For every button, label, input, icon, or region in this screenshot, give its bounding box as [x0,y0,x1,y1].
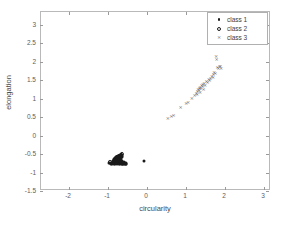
data-point-class-3 [179,105,183,109]
x-axis-tick [264,187,265,190]
y-axis-tick-label: 1 [32,94,36,101]
data-point-class-3 [202,87,206,91]
x-axis-tick [69,187,70,190]
legend: class 1 class 2 × class 3 [207,12,268,45]
y-axis-tick-right [266,80,269,81]
y-axis-tick-right [266,136,269,137]
x-axis-tick [108,187,109,190]
y-axis-tick-right [266,62,269,63]
legend-item-label: class 2 [227,25,247,32]
x-axis-tick-top [186,12,187,15]
x-axis-tick-label: -1 [104,192,110,199]
x-axis-tick-label: -2 [65,192,71,199]
data-point-class-1 [143,160,146,163]
y-axis-tick-label: -1.5 [25,187,36,194]
y-axis-tick [40,173,43,174]
x-axis-tick-label: 0 [144,192,148,199]
x-axis-tick-top [108,12,109,15]
x-axis-tick-label: 3 [261,192,265,199]
y-axis-tick-right [266,173,269,174]
scatter-plot-figure: elongation circularity class 1 class 2 ×… [0,0,283,227]
y-axis-tick-label: 1.5 [27,76,36,83]
y-axis-tick-right [266,117,269,118]
y-axis-tick [40,80,43,81]
legend-item[interactable]: class 2 [211,24,264,33]
x-axis-label: circularity [40,204,270,213]
data-point-class-3 [214,57,218,61]
filled-dot-icon [211,18,227,21]
y-axis-tick-label: -0.5 [25,150,36,157]
legend-item[interactable]: class 1 [211,15,264,24]
data-point-class-3 [219,66,223,70]
y-axis-tick-right [266,99,269,100]
x-axis-tick-label: 2 [222,192,226,199]
legend-item-label: class 3 [227,34,247,41]
open-circle-icon [211,27,227,31]
x-axis-tick-top [69,12,70,15]
x-axis-tick [186,187,187,190]
y-axis-tick [40,191,43,192]
legend-item[interactable]: × class 3 [211,33,264,42]
y-axis-tick-label: 2.5 [27,39,36,46]
x-axis-tick-top [147,12,148,15]
y-axis-tick [40,43,43,44]
data-point-class-3 [213,71,217,75]
y-axis-tick-label: 3 [32,20,36,27]
y-axis-tick-label: 0 [32,131,36,138]
x-axis-tick-label: 1 [183,192,187,199]
y-axis-tick-label: 0.5 [27,113,36,120]
data-point-class-3 [172,113,176,117]
y-axis-tick-right [266,154,269,155]
y-axis-tick [40,117,43,118]
y-axis-tick-label: -1 [30,168,36,175]
x-axis-tick [147,187,148,190]
y-axis-tick [40,154,43,155]
data-point-class-1 [125,162,128,165]
data-point-class-3 [195,92,199,96]
y-axis-tick [40,136,43,137]
y-axis-tick-right [266,191,269,192]
y-axis-tick-label: 2 [32,57,36,64]
legend-item-label: class 1 [227,16,247,23]
y-axis-tick [40,62,43,63]
y-axis-tick [40,99,43,100]
y-axis-tick [40,25,43,26]
x-axis-tick [225,187,226,190]
cross-x-icon: × [211,35,227,40]
y-axis-label: elongation [4,63,13,123]
